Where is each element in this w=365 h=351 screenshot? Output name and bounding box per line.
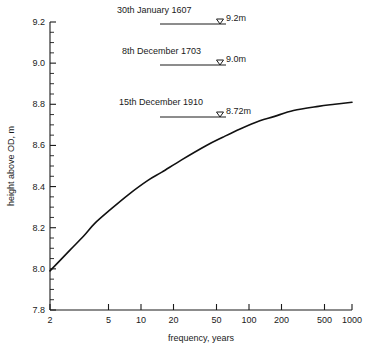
y-tick-label: 8.4 <box>32 182 45 192</box>
y-axis-title: height above OD, m <box>6 126 16 206</box>
annotation-date-label: 15th December 1910 <box>119 97 203 107</box>
triangle-marker-icon <box>217 19 224 24</box>
x-ticks <box>50 304 352 310</box>
y-tick-label: 9.2 <box>32 17 45 27</box>
x-tick-label: 50 <box>211 315 221 325</box>
y-tick-label: 8.0 <box>32 264 45 274</box>
chart-figure: 7.8 8.0 8.2 8.4 8.6 8.8 9.0 9.2 2 5 10 <box>0 0 365 351</box>
triangle-marker-icon <box>217 60 224 65</box>
frequency-height-chart: 7.8 8.0 8.2 8.4 8.6 8.8 9.0 9.2 2 5 10 <box>0 0 365 351</box>
annotation-value-label: 8.72m <box>226 106 251 116</box>
x-tick-label: 20 <box>168 315 178 325</box>
y-tick-label: 8.8 <box>32 99 45 109</box>
x-tick-label: 1000 <box>342 315 362 325</box>
annotation-1703: 8th December 1703 9.0m <box>122 46 246 65</box>
annotation-1910: 15th December 1910 8.72m <box>119 97 251 117</box>
y-tick-label: 7.8 <box>32 305 45 315</box>
annotation-value-label: 9.2m <box>226 13 246 23</box>
x-tick-label: 200 <box>274 315 289 325</box>
triangle-marker-icon <box>217 112 224 117</box>
x-tick-label: 100 <box>241 315 256 325</box>
y-minor-ticks <box>50 32 54 299</box>
annotation-date-label: 8th December 1703 <box>122 46 201 56</box>
y-tick-labels: 7.8 8.0 8.2 8.4 8.6 8.8 9.0 9.2 <box>32 17 45 315</box>
x-tick-labels: 2 5 10 20 50 100 200 500 1000 <box>47 315 362 325</box>
x-tick-label: 5 <box>106 315 111 325</box>
y-tick-label: 9.0 <box>32 58 45 68</box>
annotation-value-label: 9.0m <box>226 54 246 64</box>
y-tick-label: 8.2 <box>32 223 45 233</box>
x-tick-label: 2 <box>47 315 52 325</box>
y-tick-label: 8.6 <box>32 140 45 150</box>
annotation-date-label: 30th January 1607 <box>117 5 192 15</box>
data-series-line <box>50 102 352 271</box>
annotation-1607: 30th January 1607 9.2m <box>117 5 246 24</box>
x-tick-label: 10 <box>136 315 146 325</box>
x-tick-label: 500 <box>317 315 332 325</box>
x-axis-title: frequency, years <box>168 333 234 343</box>
